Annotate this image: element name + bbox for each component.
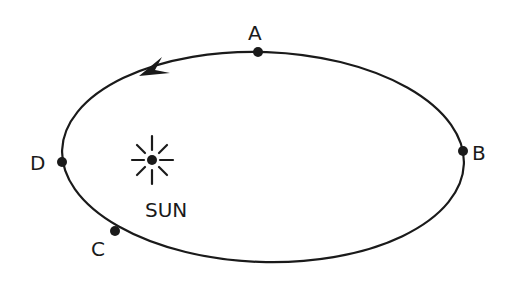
orbit-diagram: SUN A B C D — [0, 0, 518, 295]
point-b-marker — [458, 146, 468, 156]
orbit-path — [58, 45, 467, 269]
sun-icon — [132, 136, 173, 184]
point-c-marker — [110, 226, 120, 236]
point-d-marker — [57, 157, 67, 167]
point-c-label: C — [91, 237, 105, 261]
sun-label: SUN — [145, 198, 187, 222]
point-a-marker — [253, 47, 263, 57]
point-a-label: A — [248, 21, 262, 45]
point-b-label: B — [472, 141, 486, 165]
direction-arrow-icon — [139, 57, 170, 76]
point-d-label: D — [30, 151, 45, 175]
